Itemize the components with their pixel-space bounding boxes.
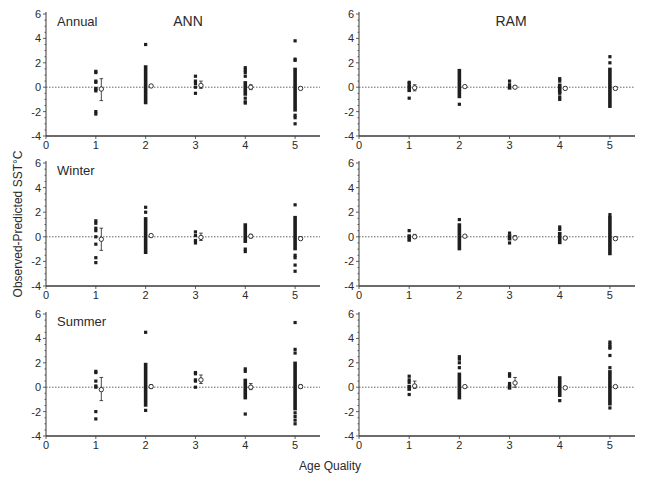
data-point — [244, 71, 247, 74]
age-quality-group-2 — [144, 43, 154, 104]
data-point — [194, 92, 197, 95]
x-tick-label: 4 — [242, 439, 248, 451]
age-quality-group-5 — [608, 340, 618, 409]
x-tick-label: 4 — [557, 439, 563, 451]
x-tick-label: 3 — [506, 139, 512, 151]
mean-marker — [99, 87, 103, 91]
x-tick-label: 5 — [292, 289, 298, 301]
mean-marker — [613, 384, 617, 388]
data-point — [458, 218, 461, 221]
dense-points-bar — [558, 376, 562, 397]
x-tick-label: 1 — [406, 289, 412, 301]
panel-summer-ann: -4-20246012345Summer — [31, 308, 320, 451]
x-tick-label: 3 — [192, 289, 198, 301]
x-tick-label: 2 — [143, 139, 149, 151]
mean-marker — [199, 378, 203, 382]
data-point — [293, 59, 296, 62]
data-point — [94, 243, 97, 246]
panel-row-label: Winter — [57, 163, 95, 178]
data-point — [293, 122, 296, 125]
data-point — [293, 256, 296, 259]
data-point — [408, 97, 411, 100]
data-point — [408, 82, 411, 85]
dense-points-bar — [508, 385, 512, 390]
x-tick-label: 5 — [607, 139, 613, 151]
data-point — [94, 410, 97, 413]
y-tick-label: -4 — [31, 130, 41, 142]
data-point — [94, 256, 97, 259]
age-quality-group-5 — [608, 55, 618, 108]
dense-points-bar — [608, 68, 612, 108]
age-quality-group-1 — [407, 229, 417, 242]
panel-winter-ram: -4-20246012345 — [344, 157, 635, 301]
x-tick-label: 2 — [456, 289, 462, 301]
mean-marker — [199, 83, 203, 87]
x-tick-label: 4 — [242, 139, 248, 151]
data-point — [144, 409, 147, 412]
data-point — [293, 321, 296, 324]
mean-marker — [563, 386, 567, 390]
data-point — [94, 371, 97, 374]
mean-marker — [513, 381, 517, 385]
x-tick-label: 1 — [93, 439, 99, 451]
y-tick-label: 4 — [348, 32, 354, 44]
data-point — [458, 361, 461, 364]
x-tick-label: 4 — [557, 139, 563, 151]
data-point — [608, 61, 611, 64]
y-tick-label: 6 — [348, 308, 354, 320]
panel-winter-ann: -4-20246012345Winter — [31, 157, 320, 301]
data-point — [508, 232, 511, 235]
data-point — [244, 97, 247, 100]
panel-summer-ram: -4-20246012345 — [344, 308, 635, 451]
data-point — [244, 75, 247, 78]
y-tick-label: 2 — [35, 357, 41, 369]
mean-marker — [412, 86, 416, 90]
mean-marker — [298, 86, 302, 90]
age-quality-group-4 — [243, 66, 252, 105]
data-point — [608, 347, 611, 350]
data-point — [244, 250, 247, 253]
age-quality-group-2 — [458, 218, 468, 250]
age-quality-group-4 — [243, 367, 252, 415]
y-tick-label: -4 — [31, 280, 41, 292]
dense-points-bar — [508, 86, 512, 90]
dense-points-bar — [407, 234, 411, 241]
x-tick-label: 4 — [242, 289, 248, 301]
y-tick-label: 2 — [348, 57, 354, 69]
age-quality-group-4 — [558, 376, 568, 402]
panel-row-label: Annual — [57, 14, 98, 29]
data-point — [94, 71, 97, 74]
data-point — [94, 112, 97, 115]
data-point — [194, 380, 197, 383]
data-point — [144, 206, 147, 209]
data-point — [293, 39, 296, 42]
dense-points-bar — [608, 370, 612, 405]
x-tick-label: 3 — [192, 139, 198, 151]
x-tick-label: 0 — [356, 139, 362, 151]
data-point — [408, 381, 411, 384]
y-tick-label: -2 — [31, 106, 41, 118]
data-point — [508, 241, 511, 244]
mean-marker — [463, 84, 467, 88]
dense-points-bar — [508, 234, 512, 240]
dense-points-bar — [293, 216, 297, 250]
y-tick-label: 0 — [35, 81, 41, 93]
y-tick-label: 4 — [35, 32, 41, 44]
y-tick-label: 2 — [348, 206, 354, 218]
mean-marker — [298, 384, 302, 388]
data-point — [458, 103, 461, 106]
panel-annual-ram: -4-20246012345RAM — [344, 8, 635, 151]
mean-marker — [613, 86, 617, 90]
data-point — [608, 354, 611, 357]
dense-points-bar — [458, 69, 462, 98]
data-point — [194, 75, 197, 78]
x-tick-label: 0 — [43, 139, 49, 151]
age-quality-group-4 — [558, 77, 568, 101]
y-tick-label: 4 — [35, 182, 41, 194]
y-tick-label: 6 — [35, 157, 41, 169]
age-quality-group-1 — [407, 81, 417, 100]
age-quality-group-2 — [144, 206, 154, 254]
data-point — [293, 270, 296, 273]
panels-group: -4-20246012345AnnualANN-4-20246012345RAM… — [31, 8, 635, 451]
age-quality-group-2 — [144, 331, 154, 412]
